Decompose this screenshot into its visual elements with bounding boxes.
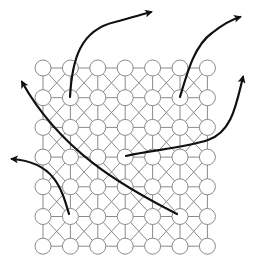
grid-node bbox=[90, 90, 106, 106]
grid-node bbox=[145, 238, 161, 254]
grid-node bbox=[35, 90, 51, 106]
diagram-svg bbox=[0, 0, 253, 264]
grid-node bbox=[199, 60, 215, 76]
grid-node bbox=[172, 209, 188, 225]
grid-node bbox=[117, 60, 133, 76]
arrow-2 bbox=[180, 17, 240, 97]
grid-node bbox=[199, 209, 215, 225]
grid-node bbox=[62, 119, 78, 135]
grid-node bbox=[35, 149, 51, 165]
grid-node bbox=[90, 238, 106, 254]
grid-node bbox=[90, 209, 106, 225]
grid-node bbox=[90, 179, 106, 195]
grid-node bbox=[145, 209, 161, 225]
grid-node bbox=[199, 179, 215, 195]
grid-node bbox=[145, 119, 161, 135]
grid-node bbox=[62, 179, 78, 195]
grid-node bbox=[145, 179, 161, 195]
grid-graph-diagram bbox=[0, 0, 253, 264]
grid-node bbox=[172, 238, 188, 254]
grid-node bbox=[172, 179, 188, 195]
grid-node bbox=[62, 209, 78, 225]
grid-node bbox=[199, 238, 215, 254]
grid-node bbox=[117, 149, 133, 165]
grid-node bbox=[145, 60, 161, 76]
grid-node bbox=[35, 238, 51, 254]
grid-node bbox=[117, 119, 133, 135]
grid-node bbox=[62, 238, 78, 254]
grid-node bbox=[90, 60, 106, 76]
grid-node bbox=[90, 119, 106, 135]
grid-node bbox=[117, 209, 133, 225]
grid-node bbox=[117, 238, 133, 254]
grid-node bbox=[145, 90, 161, 106]
grid-node bbox=[117, 90, 133, 106]
grid-node bbox=[172, 60, 188, 76]
grid-node bbox=[199, 149, 215, 165]
grid-node bbox=[172, 149, 188, 165]
grid-node bbox=[35, 179, 51, 195]
grid-node bbox=[172, 119, 188, 135]
grid-node bbox=[35, 60, 51, 76]
grid-node bbox=[199, 90, 215, 106]
grid-node bbox=[35, 209, 51, 225]
grid-node bbox=[62, 149, 78, 165]
grid-node bbox=[199, 119, 215, 135]
arrow-3 bbox=[126, 77, 243, 156]
